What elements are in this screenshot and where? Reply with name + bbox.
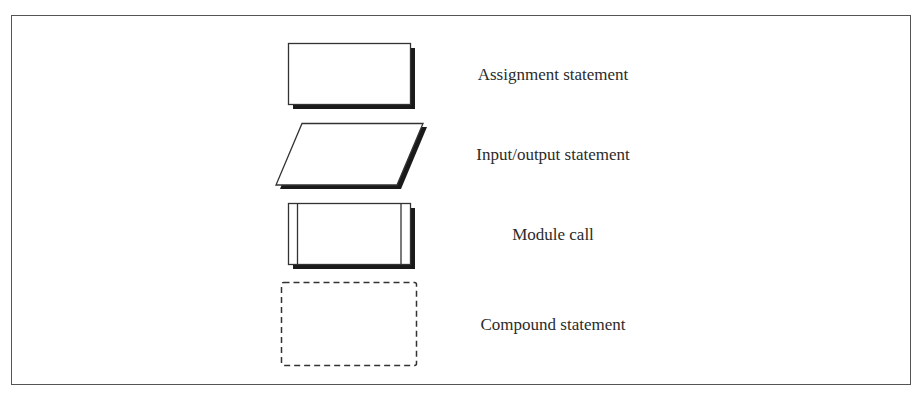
input-output-label: Input/output statement [476,145,629,165]
symbol-shapes [0,0,922,393]
module-call-box [289,204,411,265]
input-output-box [276,124,423,186]
assignment-label: Assignment statement [478,65,629,85]
compound-box [282,283,417,366]
module-call-label: Module call [512,225,594,245]
assignment-symbol [289,44,416,110]
input-output-symbol [276,124,427,190]
compound-symbol [282,283,417,366]
assignment-box [289,44,411,105]
compound-label: Compound statement [481,315,626,335]
module-call-symbol [289,204,416,270]
